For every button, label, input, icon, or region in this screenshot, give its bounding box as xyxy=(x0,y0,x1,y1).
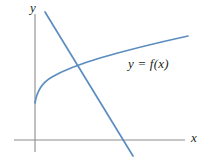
secant-line xyxy=(45,12,133,156)
x-axis-label: x xyxy=(191,131,197,144)
y-axis-label: y xyxy=(30,1,36,14)
plot-canvas xyxy=(0,0,205,167)
function-graph-figure: y x y = f(x) xyxy=(0,0,205,167)
function-curve-label: y = f(x) xyxy=(128,56,169,72)
